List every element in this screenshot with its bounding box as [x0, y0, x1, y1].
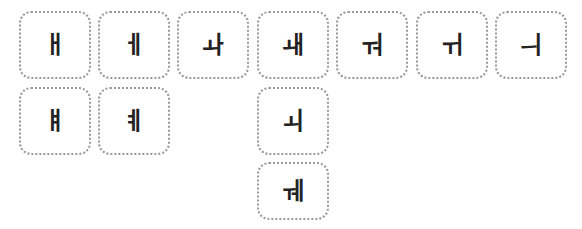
vowel-tile-oe[interactable]: ㅚ [257, 87, 329, 155]
vowel-glyph: ㅖ [123, 109, 145, 133]
vowel-tile-wi[interactable]: ㅟ [416, 11, 488, 79]
vowel-tile-wa[interactable]: ㅘ [177, 11, 249, 79]
vowel-glyph: ㅐ [44, 33, 66, 57]
vowel-glyph: ㅢ [520, 33, 542, 57]
vowel-tile-wae[interactable]: ㅙ [257, 11, 329, 79]
vowel-glyph: ㅒ [44, 109, 66, 133]
vowel-glyph: ㅘ [202, 33, 224, 57]
vowel-glyph: ㅔ [123, 33, 145, 57]
vowel-tile-ye[interactable]: ㅖ [98, 87, 170, 155]
vowel-tile-ui[interactable]: ㅢ [495, 11, 567, 79]
vowel-glyph: ㅟ [441, 33, 463, 57]
vowel-tile-yae[interactable]: ㅒ [19, 87, 91, 155]
vowel-glyph: ㅚ [282, 109, 304, 133]
vowel-tile-wo[interactable]: ㅝ [336, 11, 408, 79]
vowel-tile-e[interactable]: ㅔ [98, 11, 170, 79]
vowel-tile-we[interactable]: ㅞ [257, 162, 329, 220]
vowel-glyph: ㅞ [282, 179, 304, 203]
vowel-tile-ae[interactable]: ㅐ [19, 11, 91, 79]
vowel-glyph: ㅙ [282, 33, 304, 57]
vowel-glyph: ㅝ [361, 33, 383, 57]
